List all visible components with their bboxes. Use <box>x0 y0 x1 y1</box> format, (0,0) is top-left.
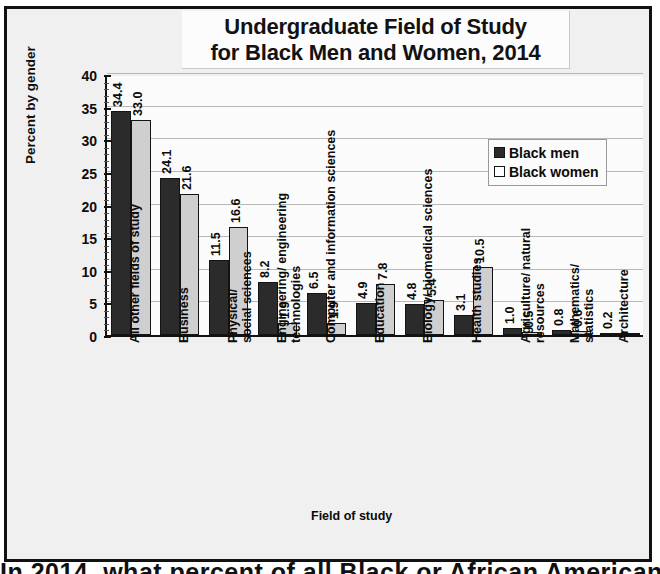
y-axis-tick-label: 10 <box>53 264 97 280</box>
bar-value-label: 11.5 <box>209 232 223 256</box>
y-axis-minor-tick <box>104 89 109 90</box>
y-axis-minor-tick <box>104 128 109 129</box>
y-axis-minor-tick <box>104 200 109 201</box>
x-axis-category-label: Business <box>177 287 191 343</box>
y-axis-tick-label: 15 <box>53 231 97 247</box>
gridline <box>107 106 643 107</box>
bar-value-label: 3.1 <box>454 293 468 310</box>
figure-caption-text: In 2014, what percent of all Black or Af… <box>0 562 660 574</box>
y-axis-tick-label: 5 <box>53 296 97 312</box>
y-axis-minor-tick <box>104 193 109 194</box>
y-axis-minor-tick <box>104 122 109 123</box>
y-axis-minor-tick <box>104 246 109 247</box>
y-axis-minor-tick <box>104 83 109 84</box>
y-axis-tick <box>104 271 111 273</box>
legend-item-black-men: Black men <box>494 143 598 162</box>
y-axis-minor-tick <box>104 233 109 234</box>
x-axis-category-label: All other fields of study <box>128 204 142 343</box>
x-axis-category-label: Physical/ social sciences <box>226 251 254 343</box>
y-axis-minor-tick <box>104 291 109 292</box>
y-axis-tick-label: 20 <box>53 199 97 215</box>
y-axis-minor-tick <box>104 226 109 227</box>
y-axis-title: Percent by gender <box>23 46 38 164</box>
y-axis-tick <box>104 238 111 240</box>
legend-label-black-women: Black women <box>509 164 598 180</box>
y-axis-minor-tick <box>104 324 109 325</box>
y-axis-minor-tick <box>104 187 109 188</box>
y-axis-tick <box>104 140 111 142</box>
y-axis-tick-label: 25 <box>53 166 97 182</box>
bar-value-label: 16.6 <box>229 198 243 222</box>
chart-title-line-1: Undergraduate Field of Study <box>224 14 526 40</box>
x-axis-category-label: Biology/ biomedical sciences <box>421 169 435 343</box>
y-axis-minor-tick <box>104 180 109 181</box>
x-axis-category-label: Mathematics/ statistics <box>568 264 596 343</box>
y-axis-minor-tick <box>104 167 109 168</box>
y-axis-minor-tick <box>104 220 109 221</box>
y-axis-tick <box>104 303 111 305</box>
x-axis-category-label: Education <box>373 283 387 343</box>
y-axis-minor-tick <box>104 115 109 116</box>
bar-value-label: 8.2 <box>258 260 272 277</box>
bar-value-label: 24.1 <box>160 149 174 173</box>
bar-value-label: 0.8 <box>552 308 566 325</box>
y-axis-minor-tick <box>104 265 109 266</box>
bar-value-label: 0.2 <box>601 312 615 329</box>
y-axis-tick <box>104 206 111 208</box>
x-axis-category-label: Health studies <box>470 258 484 343</box>
bar-value-label: 6.5 <box>307 271 321 288</box>
chart-screenshot: Percent by gender 34.433.024.121.611.516… <box>0 0 660 574</box>
gridline <box>107 73 643 74</box>
y-axis-tick-label: 35 <box>53 101 97 117</box>
bar-value-label: 4.9 <box>356 282 370 299</box>
chart-title: Undergraduate Field of Study for Black M… <box>182 11 570 69</box>
chart-legend: Black men Black women <box>488 139 607 186</box>
bar-value-label: 33.0 <box>131 91 145 115</box>
y-axis-tick <box>104 173 111 175</box>
x-axis-category-label: Engineering/ engineering technologies <box>275 193 303 343</box>
chart-title-line-2: for Black Men and Women, 2014 <box>210 40 540 66</box>
legend-swatch-black-women <box>494 166 505 177</box>
y-axis-tick <box>104 75 111 77</box>
x-axis-category-label: Architecture <box>617 269 631 343</box>
y-axis-minor-tick <box>104 317 109 318</box>
y-axis-minor-tick <box>104 102 109 103</box>
y-axis-minor-tick <box>104 252 109 253</box>
y-axis-tick <box>104 108 111 110</box>
y-axis-minor-tick <box>104 148 109 149</box>
x-axis-category-label: Agriculture/ natural resources <box>519 213 547 343</box>
bar-value-label: 7.8 <box>376 263 390 280</box>
y-axis-minor-tick <box>104 161 109 162</box>
y-axis-minor-tick <box>104 298 109 299</box>
legend-swatch-black-men <box>494 147 505 158</box>
bar-value-label: 1.0 <box>503 307 517 324</box>
y-axis-minor-tick <box>104 135 109 136</box>
y-axis-tick-label: 40 <box>53 68 97 84</box>
y-axis-minor-tick <box>104 213 109 214</box>
y-axis-tick-label: 0 <box>53 329 97 345</box>
legend-label-black-men: Black men <box>509 145 579 161</box>
y-axis-minor-tick <box>104 259 109 260</box>
y-axis-minor-tick <box>104 278 109 279</box>
y-axis-minor-tick <box>104 154 109 155</box>
y-axis-minor-tick <box>104 330 109 331</box>
y-axis-tick-label: 30 <box>53 133 97 149</box>
chart-frame: Percent by gender 34.433.024.121.611.516… <box>4 6 652 562</box>
bar-value-label: 34.4 <box>111 82 125 106</box>
y-axis-tick <box>104 336 111 338</box>
figure-caption: In 2014, what percent of all Black or Af… <box>0 562 660 574</box>
x-axis-category-label: Computer and information sciences <box>324 130 338 343</box>
y-axis-minor-tick <box>104 96 109 97</box>
y-axis-minor-tick <box>104 285 109 286</box>
bar-value-label: 4.8 <box>405 282 419 299</box>
y-axis-minor-tick <box>104 311 109 312</box>
legend-item-black-women: Black women <box>494 162 598 181</box>
bar-value-label: 21.6 <box>180 166 194 190</box>
x-axis-title: Field of study <box>311 509 392 523</box>
